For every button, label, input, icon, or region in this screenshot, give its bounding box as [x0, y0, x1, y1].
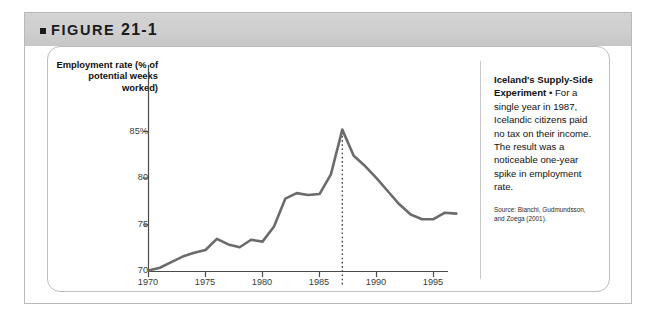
caption-description: For a single year in 1987, Icelandic cit…: [494, 87, 591, 192]
employment-rate-line: [149, 130, 457, 271]
caption-separator: •: [546, 87, 555, 98]
square-bullet-icon: [40, 28, 46, 34]
caption-panel: Iceland's Supply-Side Experiment • For a…: [494, 73, 598, 223]
panel-divider: [480, 61, 481, 279]
caption-text: Iceland's Supply-Side Experiment • For a…: [494, 73, 598, 194]
figure-label: FIGURE: [51, 22, 115, 38]
chart-panel: Employment rate (% of potential weeks wo…: [48, 47, 458, 291]
caption-heading: Iceland's Supply-Side Experiment: [494, 74, 593, 98]
figure-card: Employment rate (% of potential weeks wo…: [47, 46, 610, 292]
chart-plot: [48, 47, 458, 292]
caption-source: Source: Bianchi, Gudmundsson, and Zoega …: [494, 205, 598, 223]
figure-header-band: FIGURE 21-1: [25, 13, 631, 46]
figure-title: FIGURE 21-1: [51, 21, 158, 39]
figure-number: 21-1: [121, 21, 158, 38]
figure-frame: FIGURE 21-1 Employment rate (% of potent…: [24, 12, 632, 304]
